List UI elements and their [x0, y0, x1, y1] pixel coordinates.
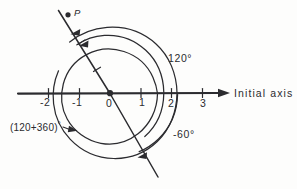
tick-label-minus-2: -2: [40, 96, 51, 108]
origin-point: [107, 90, 113, 96]
point-p-label: P: [74, 7, 81, 18]
angle-label-minus-60: -60°: [173, 128, 195, 140]
tick-label-2: 2: [168, 97, 174, 109]
initial-axis-label: Initial axis: [234, 87, 293, 99]
arc-120-degrees: [145, 93, 164, 136]
tick-label-origin: 0: [106, 97, 112, 109]
polar-angle-diagram: -2 -1 0 1 2 3 Initial axis P 120° -60° (…: [0, 0, 297, 189]
tick-label-3: 3: [200, 97, 206, 109]
angle-label-120: 120°: [168, 52, 192, 64]
initial-axis-arrowhead: [218, 89, 230, 97]
angle-label-coterminal: (120+360)°: [10, 120, 61, 133]
opposite-ray: [110, 94, 158, 178]
coterminal-expression: (120+360): [10, 122, 58, 133]
tick-label-1: 1: [139, 96, 145, 108]
arc-outer-lower-left: [53, 71, 177, 159]
point-p-dot: [65, 12, 70, 17]
tick-label-minus-1: -1: [72, 96, 83, 108]
arc-120-upper: [77, 35, 164, 92]
terminal-ray: [59, 11, 111, 94]
coterminal-degree-mark: °: [58, 120, 61, 129]
